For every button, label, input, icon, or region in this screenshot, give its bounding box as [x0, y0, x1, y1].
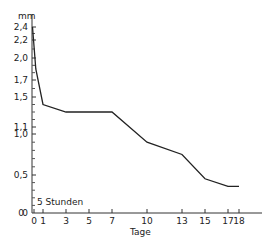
x-tick-label: 15 [199, 216, 210, 226]
x-tick-label: 17 [222, 216, 233, 226]
x-ticks: 013571013151718 [31, 209, 245, 226]
y-zero-label: 0 [18, 208, 24, 218]
x-tick-label: 3 [63, 216, 69, 226]
line-chart: 2,42,22,01,71,51,11,00,500 0135710131517… [0, 0, 276, 251]
y-axis-unit: mm [18, 11, 36, 21]
axes [32, 14, 262, 213]
y-tick-label: 0,5 [14, 170, 28, 180]
x-tick-label: 1 [40, 216, 46, 226]
x-tick-label: 5 [86, 216, 92, 226]
x-tick-label: 0 [31, 216, 37, 226]
x-tick-label: 10 [141, 216, 153, 226]
annotation-5-hours: 5 Stunden [37, 197, 83, 207]
data-line [33, 27, 240, 186]
y-tick-label: 1,5 [14, 92, 28, 102]
y-tick-label: 2,0 [14, 53, 29, 63]
y-ticks: 2,42,22,01,71,51,11,00,500 [14, 22, 36, 218]
x-tick-label: 7 [109, 216, 115, 226]
x-tick-label: 18 [233, 216, 245, 226]
y-tick-label: 1,0 [14, 129, 29, 139]
x-axis-title: Tage [129, 227, 151, 237]
y-tick-label: 1,7 [14, 75, 28, 85]
x-tick-label: 13 [176, 216, 187, 226]
y-tick-label: 2,4 [14, 22, 29, 32]
y-tick-label: 2,2 [14, 35, 28, 45]
